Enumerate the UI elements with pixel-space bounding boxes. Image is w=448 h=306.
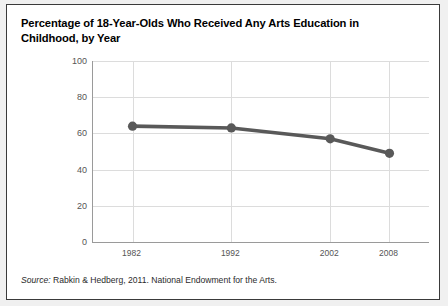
- source-note: Source: Rabkin & Hedberg, 2011. National…: [21, 275, 277, 285]
- x-tick-label: 1992: [221, 248, 240, 258]
- x-tick-label: 1982: [122, 248, 141, 258]
- y-tick-label: 60: [57, 128, 87, 138]
- data-point-1992: [227, 123, 236, 132]
- figure-card: Percentage of 18-Year-Olds Who Received …: [6, 4, 440, 300]
- x-axis-tick-labels: 1982199220022008: [92, 243, 429, 263]
- y-tick-label: 20: [57, 201, 87, 211]
- y-tick-label: 100: [57, 56, 87, 66]
- x-tick-label: 2008: [379, 248, 398, 258]
- y-tick-label: 80: [57, 92, 87, 102]
- plot-area: [92, 61, 429, 243]
- y-axis-tick-labels: 020406080100: [55, 61, 87, 243]
- y-tick-label: 0: [57, 237, 87, 247]
- y-tick-label: 40: [57, 165, 87, 175]
- line-series: [93, 61, 429, 242]
- source-label: Source:: [21, 275, 51, 285]
- page-title: Percentage of 18-Year-Olds Who Received …: [21, 16, 361, 45]
- data-point-2008: [385, 149, 394, 158]
- chart-container: 020406080100 1982199220022008: [7, 57, 441, 247]
- data-point-2002: [326, 134, 335, 143]
- series-line: [133, 126, 390, 153]
- data-point-1982: [128, 122, 137, 131]
- x-tick-label: 2002: [320, 248, 339, 258]
- source-text: Rabkin & Hedberg, 2011. National Endowme…: [51, 275, 277, 285]
